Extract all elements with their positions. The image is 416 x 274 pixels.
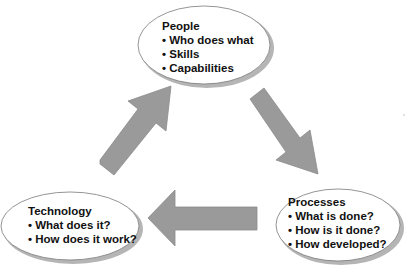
node-processes-bullet: How is it done? — [288, 223, 387, 237]
node-people-bullet: Capabilities — [162, 61, 254, 75]
node-processes-title: Processes — [288, 195, 387, 209]
stray-dot — [403, 114, 405, 116]
node-technology-bullet: How does it work? — [28, 232, 137, 246]
arrow-processes-to-technology — [148, 190, 257, 246]
node-people-title: People — [162, 19, 254, 33]
node-technology-bullet: What does it? — [28, 218, 137, 232]
arrow-technology-to-people — [100, 86, 171, 175]
arrow-people-to-processes — [250, 88, 318, 174]
node-processes-bullet: What is done? — [288, 209, 387, 223]
node-technology-title: Technology — [28, 204, 137, 218]
node-processes-bullet: How developed? — [288, 237, 387, 251]
node-technology: Technology What does it? How does it wor… — [28, 204, 137, 246]
node-processes: Processes What is done? How is it done? … — [288, 195, 387, 251]
node-people: People Who does what Skills Capabilities — [162, 19, 254, 75]
node-people-bullet: Skills — [162, 47, 254, 61]
node-people-bullet: Who does what — [162, 33, 254, 47]
